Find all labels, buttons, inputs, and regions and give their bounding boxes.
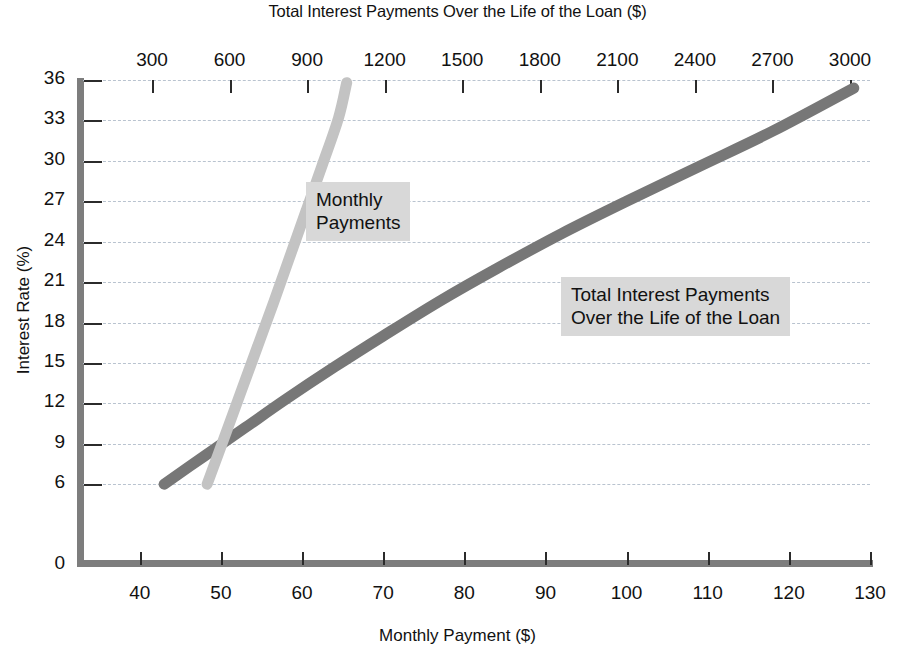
top-axis-tick xyxy=(617,80,619,93)
y-axis-tick xyxy=(84,242,102,244)
chart-figure: Total Interest Payments Over the Life of… xyxy=(0,0,915,663)
gridline xyxy=(83,201,870,202)
y-axis-tick-label: 24 xyxy=(25,229,65,251)
x-axis-tick-label: 130 xyxy=(840,582,900,604)
top-axis-tick xyxy=(152,80,154,93)
y-axis-tick-label: 9 xyxy=(25,431,65,453)
y-axis-tick-label: 27 xyxy=(25,188,65,210)
y-axis-tick xyxy=(84,403,102,405)
gridline xyxy=(83,161,870,162)
curve-monthly-payments xyxy=(207,83,347,484)
y-axis-tick-label: 30 xyxy=(25,148,65,170)
y-axis-tick xyxy=(84,120,102,122)
annotation-monthly-payments: Monthly Payments xyxy=(306,182,410,241)
top-axis-tick-label: 300 xyxy=(119,49,185,71)
top-axis-title: Total Interest Payments Over the Life of… xyxy=(0,2,915,21)
y-axis-tick xyxy=(84,363,102,365)
annotation-total-line1: Total Interest Payments xyxy=(571,284,770,305)
gridline xyxy=(83,484,870,485)
y-axis-tick-label: 6 xyxy=(25,471,65,493)
x-axis-tick-label: 120 xyxy=(759,582,819,604)
top-axis-tick xyxy=(230,80,232,93)
top-axis-tick xyxy=(850,80,852,93)
gridline xyxy=(83,242,870,243)
x-axis-tick xyxy=(383,552,385,565)
x-axis-tick xyxy=(708,552,710,565)
x-axis-tick xyxy=(464,552,466,565)
x-axis-tick xyxy=(221,552,223,565)
x-axis-tick-label: 70 xyxy=(353,582,413,604)
x-axis-tick-label: 40 xyxy=(110,582,170,604)
gridline xyxy=(83,80,870,81)
top-axis-tick xyxy=(307,80,309,93)
gridline xyxy=(83,403,870,404)
top-axis-tick-label: 600 xyxy=(197,49,263,71)
y-axis-tick-label: 12 xyxy=(25,390,65,412)
top-axis-tick xyxy=(385,80,387,93)
x-axis-tick xyxy=(627,552,629,565)
top-axis-tick-label: 2100 xyxy=(584,49,650,71)
x-axis-tick-label: 80 xyxy=(434,582,494,604)
x-axis-title: Monthly Payment ($) xyxy=(0,626,915,646)
gridline xyxy=(83,363,870,364)
y-axis-tick-label: 21 xyxy=(25,269,65,291)
y-axis-tick-label: 33 xyxy=(25,107,65,129)
x-axis-spine xyxy=(77,560,873,567)
top-axis-tick-label: 1800 xyxy=(507,49,573,71)
top-axis-tick xyxy=(462,80,464,93)
y-axis-tick xyxy=(84,201,102,203)
x-axis-tick xyxy=(140,552,142,565)
y-axis-tick-label: 18 xyxy=(25,310,65,332)
annotation-monthly-line2: Payments xyxy=(316,212,400,233)
y-axis-tick xyxy=(84,444,102,446)
top-axis-tick-label: 2700 xyxy=(739,49,805,71)
y-axis-tick-label: 0 xyxy=(25,552,65,574)
y-axis-tick xyxy=(84,282,102,284)
x-axis-tick xyxy=(545,552,547,565)
top-axis-tick xyxy=(772,80,774,93)
annotation-monthly-line1: Monthly xyxy=(316,189,383,210)
x-axis-tick-label: 90 xyxy=(515,582,575,604)
gridline xyxy=(83,444,870,445)
x-axis-tick xyxy=(870,552,872,565)
x-axis-tick-label: 110 xyxy=(678,582,738,604)
top-axis-tick xyxy=(695,80,697,93)
annotation-total-line2: Over the Life of the Loan xyxy=(571,307,780,328)
y-axis-tick xyxy=(84,484,102,486)
y-axis-tick-label: 15 xyxy=(25,350,65,372)
y-axis-tick xyxy=(84,80,102,82)
top-axis-tick-label: 1200 xyxy=(352,49,418,71)
top-axis-tick-label: 3000 xyxy=(817,49,883,71)
x-axis-tick xyxy=(302,552,304,565)
x-axis-tick-label: 50 xyxy=(191,582,251,604)
x-axis-tick xyxy=(789,552,791,565)
y-axis-tick xyxy=(84,161,102,163)
x-axis-tick-label: 100 xyxy=(597,582,657,604)
y-axis-tick xyxy=(84,323,102,325)
top-axis-tick-label: 2400 xyxy=(662,49,728,71)
gridline xyxy=(83,120,870,121)
annotation-total-interest: Total Interest Payments Over the Life of… xyxy=(561,277,790,336)
top-axis-tick-label: 1500 xyxy=(429,49,495,71)
top-axis-tick-label: 900 xyxy=(274,49,340,71)
top-axis-tick xyxy=(540,80,542,93)
x-axis-tick-label: 60 xyxy=(272,582,332,604)
y-axis-tick-label: 36 xyxy=(25,67,65,89)
